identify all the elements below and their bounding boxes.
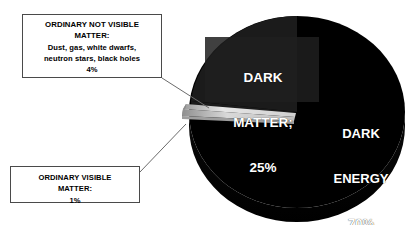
callout-not-visible-line1: ORDINARY NOT VISIBLE	[23, 19, 161, 30]
callout-not-visible-line2: MATTER:	[23, 30, 161, 41]
leader-line-visible	[140, 124, 186, 172]
callout-not-visible-line4: neutron stars, black holes	[23, 53, 161, 64]
callout-visible-line2: MATTER:	[11, 183, 139, 194]
chart-canvas: ORDINARY NOT VISIBLE MATTER: Dust, gas, …	[0, 0, 419, 225]
callout-visible-line1: ORDINARY VISIBLE	[11, 172, 139, 183]
callout-ordinary-not-visible-matter: ORDINARY NOT VISIBLE MATTER: Dust, gas, …	[22, 14, 162, 78]
dark-energy-percent: 70%	[318, 216, 404, 225]
dark-energy-line1: DARK	[318, 126, 404, 141]
callout-visible-percent: 1%	[11, 195, 139, 206]
dark-matter-line1: DARK	[218, 70, 308, 85]
dark-matter-line2: MATTER;	[218, 115, 308, 130]
slice-label-dark-energy: DARK ENERGY 70%	[318, 96, 404, 225]
slice-label-dark-matter: DARK MATTER; 25%	[218, 40, 308, 205]
dark-energy-line2: ENERGY	[318, 171, 404, 186]
callout-not-visible-percent: 4%	[23, 64, 161, 75]
callout-ordinary-visible-matter: ORDINARY VISIBLE MATTER: 1%	[10, 166, 140, 203]
dark-matter-percent: 25%	[218, 160, 308, 175]
callout-not-visible-line3: Dust, gas, white dwarfs,	[23, 42, 161, 53]
